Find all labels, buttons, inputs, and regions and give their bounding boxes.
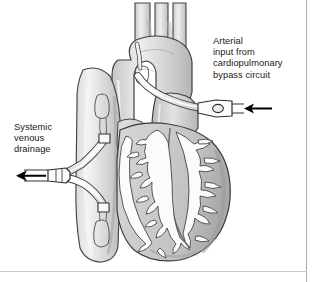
arterial-label-line-1: Arterial: [213, 36, 282, 47]
venous-label-line-2: venous: [14, 133, 52, 144]
ivc-cannula-collar: [98, 203, 109, 212]
systemic-venous-drainage-label: Systemic venous drainage: [14, 122, 52, 156]
frame-border-right: [306, 0, 307, 282]
venous-y-connector: [48, 168, 70, 183]
connector-window: [213, 104, 224, 112]
arterial-arrow-icon: [244, 104, 272, 114]
venous-label-line-3: drainage: [14, 144, 52, 155]
frame-border-bottom: [0, 271, 307, 272]
svc-cannula-collar: [99, 134, 110, 143]
medical-illustration-figure: Arterial input from cardiopulmonary bypa…: [0, 0, 320, 282]
arterial-input-label: Arterial input from cardiopulmonary bypa…: [213, 36, 282, 81]
arterial-line-stub: [232, 104, 244, 113]
arterial-label-line-4: bypass circuit: [213, 70, 282, 81]
arterial-label-line-3: cardiopulmonary: [213, 58, 282, 69]
arterial-label-line-2: input from: [213, 47, 282, 58]
venous-label-line-1: Systemic: [14, 122, 52, 133]
